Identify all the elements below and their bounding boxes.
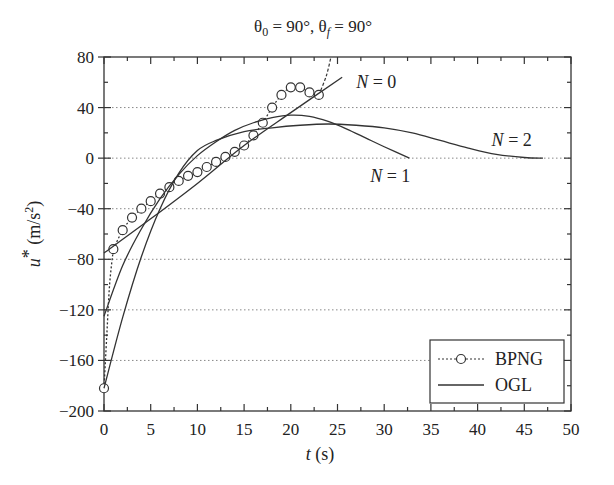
x-tick-label: 0 xyxy=(100,420,109,439)
annotation-n0: N = 0 xyxy=(355,72,396,92)
bpng-marker xyxy=(286,83,295,92)
x-tick-label: 50 xyxy=(563,420,580,439)
y-tick-label: −80 xyxy=(67,250,94,269)
bpng-marker xyxy=(277,90,286,99)
bpng-marker xyxy=(128,213,137,222)
bpng-marker xyxy=(202,162,211,171)
x-tick-label: 5 xyxy=(146,420,155,439)
x-tick-labels: 05101520253035404550 xyxy=(100,420,580,439)
y-tick-label: −120 xyxy=(59,301,94,320)
bpng-initial-dotted-line xyxy=(104,249,113,388)
curve-annotations: N = 0N = 1N = 2 xyxy=(355,72,532,186)
ogl-curve-ogl-n-=-0 xyxy=(104,77,342,253)
x-tick-label: 40 xyxy=(469,420,486,439)
x-tick-label: 35 xyxy=(422,420,439,439)
bpng-marker xyxy=(118,226,127,235)
bpng-marker xyxy=(184,171,193,180)
y-tick-labels: 80400−40−80−120−160−200 xyxy=(59,48,94,421)
y-tick-label: 0 xyxy=(86,149,95,168)
y-tick-label: 80 xyxy=(77,48,94,67)
y-tick-label: −40 xyxy=(67,200,94,219)
bpng-marker xyxy=(296,83,305,92)
annotation-n1: N = 1 xyxy=(369,166,410,186)
x-tick-label: 45 xyxy=(516,420,533,439)
bpng-marker xyxy=(193,168,202,177)
bpng-marker xyxy=(146,197,155,206)
y-tick-label: −160 xyxy=(59,351,94,370)
x-tick-label: 25 xyxy=(329,420,346,439)
chart-figure: θ0 = 90°, θf = 90° 05101520253035404550 … xyxy=(0,0,614,485)
ogl-curve-ogl-n-=-1 xyxy=(104,115,409,316)
y-tick-label: 40 xyxy=(77,99,94,118)
bpng-marker xyxy=(268,103,277,112)
legend-label-bpng: BPNG xyxy=(495,349,543,369)
x-axis-label: t (s) xyxy=(306,444,335,465)
chart-title: θ0 = 90°, θf = 90° xyxy=(254,17,372,39)
bpng-marker xyxy=(305,88,314,97)
x-tick-label: 10 xyxy=(189,420,206,439)
x-tick-label: 15 xyxy=(236,420,253,439)
x-tick-label: 20 xyxy=(282,420,299,439)
y-tick-label: −200 xyxy=(59,402,94,421)
legend-circle-marker-icon xyxy=(457,355,466,364)
bpng-marker xyxy=(137,204,146,213)
legend: BPNG OGL xyxy=(430,340,564,403)
annotation-n2: N = 2 xyxy=(491,130,532,150)
legend-label-ogl: OGL xyxy=(495,375,532,395)
x-tick-label: 30 xyxy=(376,420,393,439)
y-axis-label: u* (m/s2) xyxy=(19,201,45,268)
